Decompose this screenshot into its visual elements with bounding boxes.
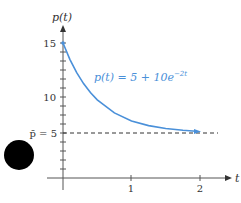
y-tick-15: 15: [43, 38, 56, 49]
x-axis-arrow-icon: [225, 175, 232, 181]
curve-p-of-t: [63, 43, 196, 131]
x-tick-1: 1: [128, 183, 134, 194]
curve-formula-label: p(t) = 5 + 10e−2t: [94, 70, 187, 84]
curve-start-point: [61, 41, 65, 45]
x-tick-2: 2: [197, 183, 203, 194]
y-axis-label: p(t): [52, 11, 72, 24]
y-tick-equilibrium: p̄ = 5: [30, 128, 58, 139]
y-axis-arrow-icon: [60, 25, 66, 32]
x-axis-label: t: [235, 172, 240, 185]
black-circle-marker: [4, 140, 34, 170]
formula-exponent: −2t: [174, 70, 187, 78]
y-tick-10: 10: [43, 92, 56, 103]
formula-main: p(t) = 5 + 10e: [94, 71, 174, 84]
chart-canvas: p(t) t 15 10 p̄ = 5 1 2 p(t) = 5 + 10e−2…: [0, 0, 241, 203]
